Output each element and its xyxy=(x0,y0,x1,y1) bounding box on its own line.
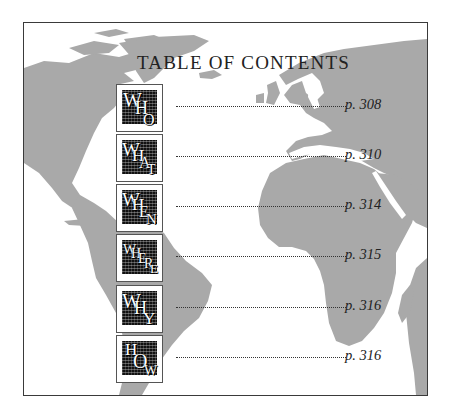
dot-leader xyxy=(176,156,346,157)
why-icon: W H Y xyxy=(116,285,163,333)
dot-leader xyxy=(176,357,346,358)
toc-entry-where[interactable]: W H E R E p. 315 xyxy=(116,234,416,282)
dot-leader xyxy=(176,106,346,107)
page-title: TABLE OF CONTENTS xyxy=(137,52,350,74)
dot-leader xyxy=(176,256,346,257)
toc-entry-how[interactable]: H O W p. 316 xyxy=(116,335,416,383)
toc-entry-when[interactable]: W H E N p. 314 xyxy=(116,184,416,232)
page-number[interactable]: p. 314 xyxy=(345,196,381,213)
how-icon: H O W xyxy=(116,335,163,383)
toc-entry-who[interactable]: W H O p. 308 xyxy=(116,84,416,132)
what-icon: W H A T xyxy=(116,134,163,182)
toc-frame: TABLE OF CONTENTS W H O p. 308 W H A T p… xyxy=(23,22,428,396)
page-number[interactable]: p. 310 xyxy=(345,146,381,163)
page-number[interactable]: p. 315 xyxy=(345,246,381,263)
who-icon: W H O xyxy=(116,84,163,132)
dot-leader xyxy=(176,307,346,308)
when-icon: W H E N xyxy=(116,184,163,232)
page-number[interactable]: p. 316 xyxy=(345,347,381,364)
toc-entry-what[interactable]: W H A T p. 310 xyxy=(116,134,416,182)
dot-leader xyxy=(176,206,346,207)
toc-entry-why[interactable]: W H Y p. 316 xyxy=(116,285,416,333)
where-icon: W H E R E xyxy=(116,234,163,282)
page-number[interactable]: p. 316 xyxy=(345,297,381,314)
page-number[interactable]: p. 308 xyxy=(345,96,381,113)
